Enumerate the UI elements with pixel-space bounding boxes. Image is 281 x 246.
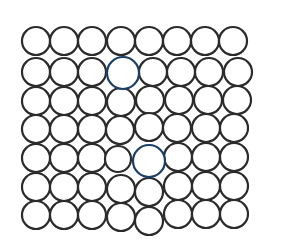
- atom: [191, 27, 219, 55]
- atom: [163, 27, 191, 55]
- lattice-row-4: [22, 113, 248, 144]
- lattice-row-1: [22, 27, 247, 55]
- atom: [224, 58, 252, 86]
- atom: [139, 58, 167, 86]
- atom: [223, 86, 251, 114]
- atom: [22, 58, 50, 86]
- atom: [22, 173, 50, 201]
- atom: [78, 58, 106, 86]
- atom: [50, 27, 78, 55]
- atom: [78, 87, 106, 115]
- atom: [50, 115, 78, 143]
- atom: [135, 113, 163, 141]
- highlighted-atom: [133, 145, 165, 177]
- atom: [192, 172, 220, 200]
- atom: [105, 146, 131, 172]
- atom: [22, 115, 50, 143]
- atom: [164, 172, 192, 200]
- atom: [78, 144, 106, 172]
- atom: [220, 114, 248, 142]
- atom: [167, 58, 195, 86]
- atomic-lattice-diagram: [0, 0, 281, 246]
- atom: [50, 144, 78, 172]
- atom: [192, 114, 220, 142]
- atom: [135, 178, 163, 206]
- atom: [135, 207, 163, 235]
- atom: [50, 58, 78, 86]
- atom: [135, 27, 163, 55]
- atom: [220, 200, 248, 228]
- atom: [164, 143, 192, 171]
- atom: [106, 116, 134, 144]
- atom: [107, 88, 135, 116]
- atom: [78, 115, 106, 143]
- atom: [219, 27, 247, 55]
- atom: [78, 173, 106, 201]
- atom: [22, 201, 50, 229]
- atom: [78, 27, 106, 55]
- atom: [164, 200, 192, 228]
- atom: [220, 143, 248, 171]
- atom: [107, 175, 135, 203]
- lattice-row-3: [22, 86, 251, 116]
- atom: [194, 86, 222, 114]
- atom: [78, 201, 106, 229]
- lattice-row-7: [22, 200, 248, 235]
- atom: [22, 27, 50, 55]
- atom: [50, 87, 78, 115]
- atoms-layer: [22, 27, 252, 235]
- atom: [107, 203, 135, 231]
- lattice-row-6: [22, 172, 248, 206]
- atom: [22, 87, 50, 115]
- highlighted-atom: [107, 57, 139, 89]
- atom: [165, 86, 193, 114]
- atom: [50, 201, 78, 229]
- atom: [220, 172, 248, 200]
- atom: [107, 27, 135, 55]
- atom: [192, 200, 220, 228]
- atom: [22, 144, 50, 172]
- atom: [136, 86, 164, 114]
- atom: [50, 173, 78, 201]
- atom: [192, 143, 220, 171]
- atom: [195, 58, 223, 86]
- atom: [163, 114, 191, 142]
